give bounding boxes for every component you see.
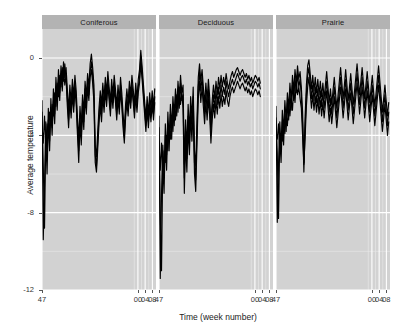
x-axis-title: Time (week number) [42,312,394,322]
y-tick-label: 0 [8,54,34,62]
x-tick-label: 08 [375,296,397,304]
x-tick-mark [379,290,380,293]
x-tick-label: 47 [265,296,287,304]
x-tick-mark [152,290,153,293]
y-tick-label: -12 [8,286,34,294]
x-tick-mark [276,290,277,293]
series-line [159,72,260,271]
x-tick-mark [255,290,256,293]
facet-strip-label: Deciduous [198,18,234,27]
facet-strip-label: Coniferous [80,18,117,27]
facet-panel-coniferous [42,29,156,290]
x-tick-mark [145,290,146,293]
x-tick-mark [386,290,387,293]
series-line [159,64,260,279]
x-tick-mark [42,290,43,293]
panel-plot-area [42,29,156,290]
facet-strip-coniferous: Coniferous [42,15,156,29]
x-tick-mark [159,290,160,293]
panel-plot-area [159,29,273,290]
x-tick-mark [269,290,270,293]
facet-strip-label: Prairie [322,18,344,27]
facet-strip-deciduous: Deciduous [159,15,273,29]
y-tick-label: -8 [8,209,34,217]
facet-strip-prairie: Prairie [276,15,390,29]
x-tick-mark [372,290,373,293]
x-tick-label: 47 [31,296,53,304]
chart-figure: Average temperature Time (week number) 0… [0,0,407,333]
x-tick-mark [262,290,263,293]
x-tick-label: 47 [148,296,170,304]
panel-plot-area [276,29,390,290]
y-tick-label: -4 [8,131,34,139]
facet-panel-prairie [276,29,390,290]
y-axis-title: Average temperature [25,55,35,255]
x-tick-mark [138,290,139,293]
facet-panel-deciduous [159,29,273,290]
